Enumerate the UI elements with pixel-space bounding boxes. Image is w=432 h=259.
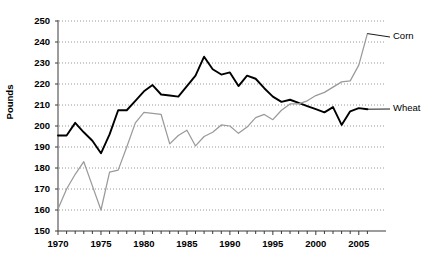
- y-tick-label-250: 250: [22, 15, 50, 26]
- y-tick-label-200: 200: [22, 120, 50, 131]
- y-axis-title: Pounds: [4, 72, 15, 132]
- series-label-wheat: Wheat: [393, 102, 420, 113]
- x-tick-label-2000: 2000: [296, 238, 336, 249]
- x-tick-label-2005: 2005: [339, 238, 379, 249]
- x-tick-label-1985: 1985: [167, 238, 207, 249]
- x-tick-label-1975: 1975: [81, 238, 121, 249]
- series-line-corn: [58, 34, 367, 210]
- y-axis-title-wrap: Pounds: [4, 72, 18, 132]
- y-tick-label-190: 190: [22, 141, 50, 152]
- x-axis-ticks: [58, 231, 367, 235]
- y-tick-label-170: 170: [22, 183, 50, 194]
- y-tick-label-240: 240: [22, 36, 50, 47]
- line-chart: Pounds 150160170180190200210220230240250…: [0, 0, 432, 259]
- x-tick-label-1995: 1995: [253, 238, 293, 249]
- y-tick-label-150: 150: [22, 225, 50, 236]
- y-tick-label-230: 230: [22, 57, 50, 68]
- label-leader-lines: [367, 34, 390, 110]
- series-label-corn: Corn: [393, 30, 414, 41]
- y-tick-label-160: 160: [22, 204, 50, 215]
- x-tick-label-1990: 1990: [210, 238, 250, 249]
- y-tick-label-220: 220: [22, 78, 50, 89]
- y-tick-label-210: 210: [22, 99, 50, 110]
- plot-area: [0, 0, 432, 259]
- y-tick-label-180: 180: [22, 162, 50, 173]
- leader-line-corn: [367, 34, 390, 37]
- x-tick-label-1980: 1980: [124, 238, 164, 249]
- series-lines: [58, 34, 367, 210]
- x-tick-label-1970: 1970: [38, 238, 78, 249]
